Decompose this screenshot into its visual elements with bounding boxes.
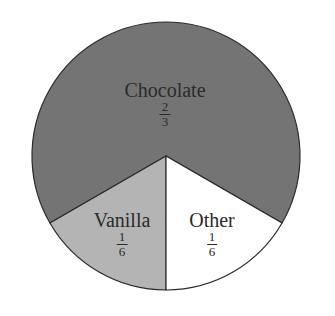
label-vanilla-name: Vanilla [94, 210, 151, 230]
label-other-fraction: 1 6 [207, 231, 218, 258]
fraction-numerator: 1 [207, 231, 218, 245]
label-chocolate-name: Chocolate [124, 80, 205, 100]
label-other: Other 1 6 [189, 210, 235, 260]
fraction-numerator: 2 [160, 101, 171, 115]
label-other-name: Other [189, 210, 235, 230]
label-vanilla: Vanilla 1 6 [94, 210, 151, 260]
pie-chart [0, 0, 335, 316]
fraction-numerator: 1 [117, 231, 128, 245]
label-chocolate-fraction: 2 3 [160, 101, 171, 128]
fraction-denominator: 3 [160, 115, 171, 128]
label-chocolate: Chocolate 2 3 [124, 80, 205, 130]
fraction-denominator: 6 [117, 245, 128, 258]
fraction-denominator: 6 [207, 245, 218, 258]
label-vanilla-fraction: 1 6 [117, 231, 128, 258]
